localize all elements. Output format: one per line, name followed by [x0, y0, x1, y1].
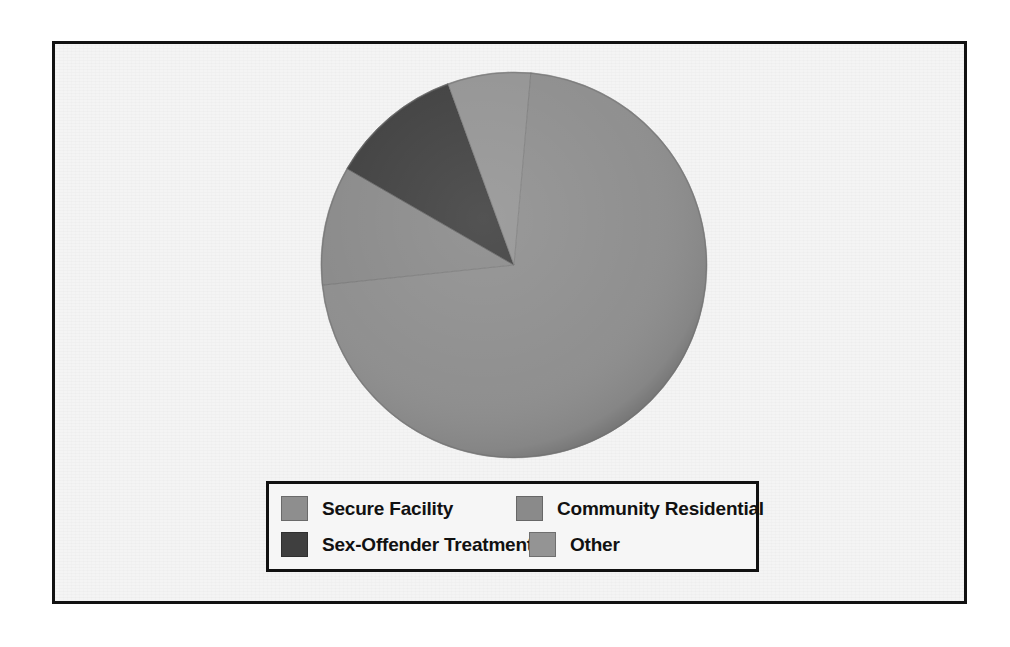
legend-item-other[interactable]: Other: [529, 532, 746, 557]
legend-label-secure-facility: Secure Facility: [322, 499, 453, 518]
legend-swatch-secure-facility: [281, 496, 308, 521]
legend-swatch-other: [529, 532, 556, 557]
chart-frame: Secure Facility Community Residential Se…: [52, 41, 967, 604]
legend-label-community-residential: Community Residential: [557, 499, 764, 518]
pie-chart: [319, 70, 709, 460]
pie-shading-overlay: [321, 72, 707, 458]
legend-item-community-residential[interactable]: Community Residential: [516, 496, 746, 521]
legend-item-sex-offender-treatment[interactable]: Sex-Offender Treatment: [281, 532, 529, 557]
pie-svg: [319, 70, 709, 460]
legend-swatch-sex-offender-treatment: [281, 532, 308, 557]
legend-item-secure-facility[interactable]: Secure Facility: [281, 496, 516, 521]
legend-swatch-community-residential: [516, 496, 543, 521]
legend-row: Secure Facility Community Residential: [281, 492, 746, 526]
legend-row: Sex-Offender Treatment Other: [281, 527, 746, 561]
legend-label-other: Other: [570, 535, 620, 554]
figure-root: Secure Facility Community Residential Se…: [0, 0, 1010, 647]
legend-label-sex-offender-treatment: Sex-Offender Treatment: [322, 535, 533, 554]
legend: Secure Facility Community Residential Se…: [266, 481, 759, 572]
